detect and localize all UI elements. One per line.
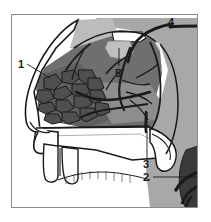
label-3: 3: [143, 158, 149, 170]
label-4: 4: [168, 16, 175, 28]
artery-upper-border-vessel: [170, 26, 198, 27]
outline-cavity-floor: [36, 127, 150, 128]
nasal-artery-diagram: 1 2 3 4 5: [0, 0, 211, 222]
tooth-incisor-2: [62, 147, 78, 184]
tooth-incisor-1: [43, 144, 58, 182]
label-1: 1: [18, 58, 24, 70]
anatomical-figure: 1 2 3 4 5: [0, 0, 211, 222]
label-2: 2: [143, 171, 149, 183]
label-5: 5: [115, 67, 121, 79]
